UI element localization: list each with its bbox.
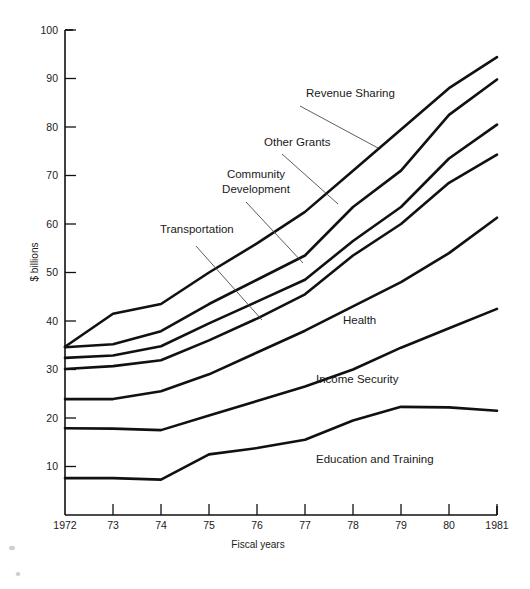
x-axis-title: Fiscal years	[231, 539, 284, 550]
y-tick-label: 80	[46, 121, 58, 133]
y-tick-label: 10	[46, 460, 58, 472]
series-annotation-revenue-sharing: Revenue Sharing	[306, 87, 395, 99]
series-annotation-education-and-training: Education and Training	[316, 453, 434, 465]
y-tick-label: 70	[46, 169, 58, 181]
series-label-other-grants: Other Grants	[264, 136, 331, 148]
leader-line-community-development	[246, 202, 303, 263]
x-tick-label: 80	[443, 519, 455, 531]
series-line-income-security	[65, 309, 497, 430]
x-tick-label: 1981	[485, 519, 509, 531]
y-axis-title: $ billions	[29, 243, 40, 282]
series-annotation-health: Health	[343, 314, 376, 326]
scan-speck	[16, 572, 21, 576]
y-axis-ticks: 102030405060708090100	[40, 24, 76, 473]
y-tick-label: 100	[40, 24, 58, 36]
series-annotation-income-security: Income Security	[316, 373, 399, 385]
y-tick-label: 50	[46, 266, 58, 278]
x-tick-label: 75	[203, 519, 215, 531]
y-tick-label: 30	[46, 363, 58, 375]
leader-line-other-grants	[282, 154, 338, 204]
x-tick-label: 76	[251, 519, 263, 531]
line-chart: 102030405060708090100 197273747576777879…	[0, 0, 530, 589]
x-tick-label: 79	[395, 519, 407, 531]
series-label-community-development: Development	[222, 183, 291, 195]
series-line-community-development	[65, 125, 497, 358]
y-tick-label: 90	[46, 72, 58, 84]
x-tick-label: 77	[299, 519, 311, 531]
series-annotation-community-development: CommunityDevelopment	[222, 168, 291, 195]
series-label-health: Health	[343, 314, 376, 326]
series-label-revenue-sharing: Revenue Sharing	[306, 87, 395, 99]
x-tick-label: 73	[107, 519, 119, 531]
series-label-income-security: Income Security	[316, 373, 399, 385]
scan-speck	[9, 546, 15, 550]
series-annotation-other-grants: Other Grants	[264, 136, 331, 148]
x-tick-label: 1972	[53, 519, 77, 531]
series-line-education-and-training	[65, 407, 497, 480]
series-line-revenue-sharing	[65, 57, 497, 347]
chart-container: 102030405060708090100 197273747576777879…	[0, 0, 530, 589]
series-label-community-development: Community	[227, 168, 285, 180]
data-series-group	[65, 57, 497, 479]
y-tick-label: 60	[46, 218, 58, 230]
series-label-transportation: Transportation	[160, 223, 234, 235]
y-tick-label: 40	[46, 315, 58, 327]
series-annotation-transportation: Transportation	[160, 223, 234, 235]
y-tick-label: 20	[46, 412, 58, 424]
x-tick-label: 74	[155, 519, 167, 531]
x-tick-label: 78	[347, 519, 359, 531]
series-label-education-and-training: Education and Training	[316, 453, 434, 465]
series-line-health	[65, 218, 497, 399]
x-axis-ticks: 197273747576777879801981	[53, 504, 509, 531]
